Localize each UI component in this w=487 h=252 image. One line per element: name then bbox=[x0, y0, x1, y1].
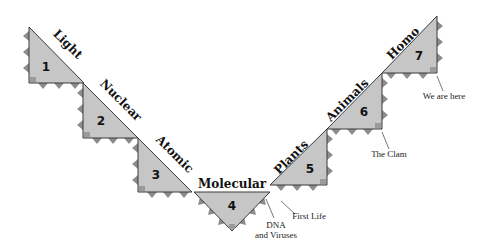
annotation-dna-viruses: DNA and Viruses bbox=[255, 199, 298, 240]
first-life-label: First Life bbox=[292, 211, 326, 221]
stage-4-label: Molecular bbox=[198, 177, 267, 191]
annotation-the-clam: The Clam bbox=[371, 132, 407, 159]
diagram-canvas: 1 Light 2 Nuclear 3 Atomic bbox=[0, 0, 487, 252]
the-clam-label: The Clam bbox=[371, 149, 407, 159]
dna-label-line2: and Viruses bbox=[255, 230, 298, 240]
stage-4-number: 4 bbox=[228, 199, 236, 213]
dna-label-line1: DNA bbox=[266, 220, 286, 230]
stage-7-number: 7 bbox=[415, 49, 423, 63]
annotation-we-are-here: We are here bbox=[423, 76, 466, 101]
stage-4-triangle: 4 bbox=[194, 192, 270, 231]
stage-1-number: 1 bbox=[42, 60, 50, 74]
stage-2-number: 2 bbox=[97, 114, 105, 128]
stage-6-number: 6 bbox=[360, 105, 368, 119]
stage-3-number: 3 bbox=[152, 168, 160, 182]
v-shaped-evolution-diagram: 1 Light 2 Nuclear 3 Atomic bbox=[0, 0, 487, 252]
stage-5-number: 5 bbox=[306, 162, 314, 176]
we-are-here-label: We are here bbox=[423, 91, 466, 101]
annotation-first-life: First Life bbox=[281, 201, 326, 221]
